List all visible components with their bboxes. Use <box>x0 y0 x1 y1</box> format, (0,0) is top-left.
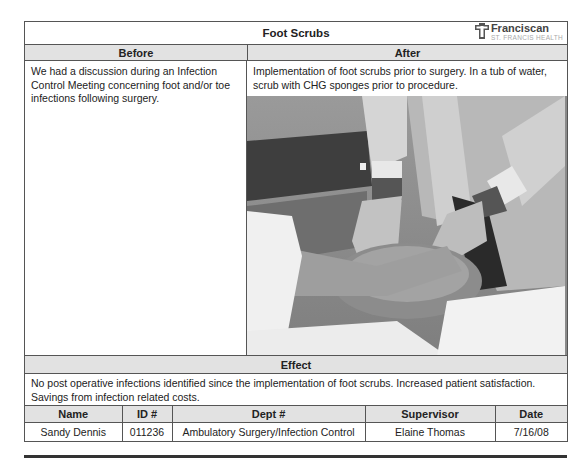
before-text: We had a discussion during an Infection … <box>25 61 247 355</box>
cell-supervisor: Elaine Thomas <box>365 423 495 442</box>
before-after-content: We had a discussion during an Infection … <box>25 61 567 356</box>
table-row: Sandy Dennis 011236 Ambulatory Surgery/I… <box>25 423 567 442</box>
header-supervisor: Supervisor <box>365 406 495 423</box>
franciscan-cross-icon <box>475 23 489 39</box>
cell-name: Sandy Dennis <box>25 423 122 442</box>
title-row: Foot Scrubs Franciscan ST. FRANCIS HEALT… <box>25 22 567 45</box>
info-table-row: Name ID # Dept # Supervisor Date Sandy D… <box>25 406 567 441</box>
logo-name: Franciscan <box>491 23 563 34</box>
column-headers: Before After <box>25 45 567 61</box>
franciscan-logo: Franciscan ST. FRANCIS HEALTH <box>475 23 563 42</box>
header-name: Name <box>25 406 122 423</box>
info-table-header: Name ID # Dept # Supervisor Date <box>25 406 567 423</box>
photo-illustration <box>247 96 565 355</box>
header-id: ID # <box>122 406 172 423</box>
cell-date: 7/16/08 <box>495 423 567 442</box>
after-header: After <box>248 45 567 60</box>
after-text: Implementation of foot scrubs prior to s… <box>247 61 567 96</box>
effect-header: Effect <box>25 356 567 374</box>
cell-dept: Ambulatory Surgery/Infection Control <box>172 423 365 442</box>
before-header: Before <box>25 45 248 60</box>
page-title: Foot Scrubs <box>262 27 329 39</box>
section-divider <box>24 455 567 458</box>
header-dept: Dept # <box>172 406 365 423</box>
effect-text: No post operative infections identified … <box>25 374 567 406</box>
foot-scrub-photo <box>247 96 567 355</box>
header-date: Date <box>495 406 567 423</box>
info-table: Name ID # Dept # Supervisor Date Sandy D… <box>25 406 567 441</box>
foot-scrubs-form: Foot Scrubs Franciscan ST. FRANCIS HEALT… <box>24 21 568 442</box>
logo-subtitle: ST. FRANCIS HEALTH <box>491 35 563 42</box>
cell-id: 011236 <box>122 423 172 442</box>
